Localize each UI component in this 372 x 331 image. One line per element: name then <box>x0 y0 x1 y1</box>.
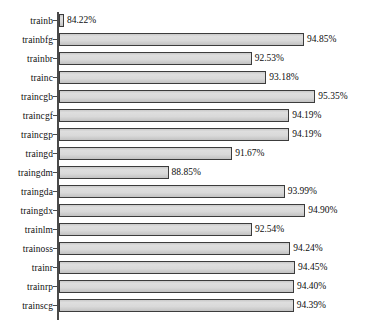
bar <box>59 223 252 236</box>
bar-value-label: 94.85% <box>304 33 336 46</box>
bar-value-label: 92.53% <box>252 52 284 65</box>
bar-row: traingd91.67% <box>0 145 372 164</box>
bar-value-label: 92.54% <box>252 223 284 236</box>
axis-tick <box>53 267 58 268</box>
bar-row: trainr94.45% <box>0 259 372 278</box>
bar-value-label: 94.40% <box>294 280 326 293</box>
bar-row: traingda93.99% <box>0 183 372 202</box>
bar-track: 94.39% <box>59 299 372 312</box>
bar-track: 92.54% <box>59 223 372 236</box>
bar-track: 84.22% <box>59 14 372 27</box>
axis-tick <box>53 58 58 59</box>
bar-rows: trainb84.22%trainbfg94.85%trainbr92.53%t… <box>0 12 372 316</box>
axis-tick <box>53 115 58 116</box>
category-label: trainb <box>0 13 53 30</box>
axis-tick <box>53 134 58 135</box>
bar <box>59 128 289 141</box>
axis-tick <box>53 172 58 173</box>
bar-value-label: 91.67% <box>232 147 264 160</box>
axis-tick <box>53 39 58 40</box>
bar-value-label: 94.90% <box>305 204 337 217</box>
category-label: traingda <box>0 184 53 201</box>
bar-value-label: 94.39% <box>294 299 326 312</box>
axis-tick <box>53 229 58 230</box>
bar-track: 94.19% <box>59 109 372 122</box>
bar-row: traincgf94.19% <box>0 107 372 126</box>
bar-value-label: 95.35% <box>315 90 347 103</box>
bar-value-label: 84.22% <box>64 14 96 27</box>
bar-track: 88.85% <box>59 166 372 179</box>
bar-value-label: 93.99% <box>285 185 317 198</box>
bar-track: 93.18% <box>59 71 372 84</box>
category-label: traingdm <box>0 165 53 182</box>
bar-value-label: 94.19% <box>289 128 321 141</box>
plot-area: trainb84.22%trainbfg94.85%trainbr92.53%t… <box>0 0 372 331</box>
bar-track: 94.19% <box>59 128 372 141</box>
bar-chart: trainb84.22%trainbfg94.85%trainbr92.53%t… <box>0 0 372 331</box>
bar-value-label: 93.18% <box>266 71 298 84</box>
category-label: traincgf <box>0 108 53 125</box>
bar-row: traingdm88.85% <box>0 164 372 183</box>
bar <box>59 52 252 65</box>
bar <box>59 147 232 160</box>
bar <box>59 109 289 122</box>
axis-tick <box>53 210 58 211</box>
bar-track: 92.53% <box>59 52 372 65</box>
category-label: trainbr <box>0 51 53 68</box>
bar-track: 94.90% <box>59 204 372 217</box>
bar-row: trainc93.18% <box>0 69 372 88</box>
category-label: trainlm <box>0 222 53 239</box>
axis-tick <box>53 153 58 154</box>
category-label: traingd <box>0 146 53 163</box>
axis-tick <box>53 20 58 21</box>
axis-tick <box>53 248 58 249</box>
bar-row: traincgp94.19% <box>0 126 372 145</box>
category-label: trainc <box>0 70 53 87</box>
bar <box>59 90 315 103</box>
bar-row: trainlm92.54% <box>0 221 372 240</box>
bar <box>59 242 290 255</box>
bar <box>59 166 169 179</box>
category-label: traincgb <box>0 89 53 106</box>
bar-value-label: 94.45% <box>295 261 327 274</box>
bar-track: 95.35% <box>59 90 372 103</box>
bar-row: trainscg94.39% <box>0 297 372 316</box>
axis-tick <box>53 96 58 97</box>
bar-track: 94.45% <box>59 261 372 274</box>
bar-value-label: 88.85% <box>169 166 201 179</box>
bar <box>59 261 295 274</box>
category-label: trainrp <box>0 279 53 296</box>
axis-tick <box>53 77 58 78</box>
category-label: trainscg <box>0 298 53 315</box>
category-label: trainr <box>0 260 53 277</box>
category-label: traincgp <box>0 127 53 144</box>
bar-track: 91.67% <box>59 147 372 160</box>
bar <box>59 33 304 46</box>
axis-tick <box>53 286 58 287</box>
bar-track: 94.40% <box>59 280 372 293</box>
bar-value-label: 94.19% <box>289 109 321 122</box>
axis-tick <box>53 305 58 306</box>
category-label: trainbfg <box>0 32 53 49</box>
bar-track: 94.24% <box>59 242 372 255</box>
bar <box>59 280 294 293</box>
bar-row: trainrp94.40% <box>0 278 372 297</box>
bar-row: traincgb95.35% <box>0 88 372 107</box>
bar-value-label: 94.24% <box>290 242 322 255</box>
bar-row: trainbr92.53% <box>0 50 372 69</box>
category-label: traingdx <box>0 203 53 220</box>
bar-row: trainoss94.24% <box>0 240 372 259</box>
bar <box>59 204 305 217</box>
bar <box>59 71 266 84</box>
bar-row: trainb84.22% <box>0 12 372 31</box>
bar <box>59 185 285 198</box>
bar <box>59 299 294 312</box>
bar-track: 93.99% <box>59 185 372 198</box>
bar-row: trainbfg94.85% <box>0 31 372 50</box>
bar-track: 94.85% <box>59 33 372 46</box>
axis-tick <box>53 191 58 192</box>
category-label: trainoss <box>0 241 53 258</box>
bar-row: traingdx94.90% <box>0 202 372 221</box>
